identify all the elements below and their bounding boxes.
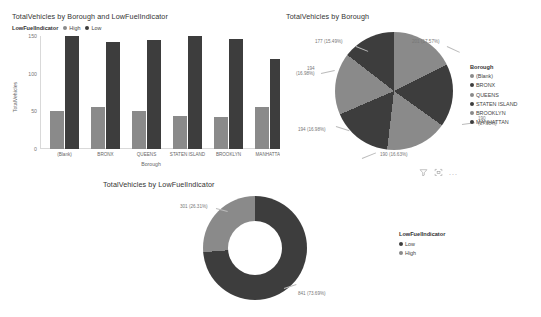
pie-legend-item-manhattan[interactable]: MANHATTAN: [470, 119, 517, 125]
pie-legend-item-blank[interactable]: (Blank): [470, 73, 517, 79]
pie-legend-item-staten-island[interactable]: STATEN ISLAND: [470, 101, 517, 107]
x-tick-label: QUEENS: [124, 152, 170, 157]
bar-low[interactable]: [106, 42, 120, 149]
donut-legend-item-high[interactable]: High: [399, 250, 445, 256]
bar-chart-title: TotalVehicles by Borough and LowFuelIndi…: [12, 12, 168, 21]
bar-group[interactable]: STATEN ISLAND: [171, 36, 204, 149]
bar-legend-title: LowFuelIndicator: [12, 25, 58, 31]
bar-high[interactable]: [132, 111, 146, 149]
donut-data-label-low: 841 (73.69%): [298, 291, 326, 296]
bar-legend-item-low[interactable]: Low: [85, 25, 101, 31]
pie-legend-item-bronx[interactable]: BRONX: [470, 82, 517, 88]
bar-high[interactable]: [91, 107, 105, 149]
y-tick-label: 100: [28, 71, 37, 77]
donut-chart-title: TotalVehicles by LowFuelIndicator: [103, 180, 215, 189]
pie-legend-label: (Blank): [476, 73, 493, 79]
bar-high[interactable]: [255, 107, 269, 149]
legend-dot-icon: [63, 26, 67, 30]
pie-legend-title: Borough: [470, 64, 517, 70]
legend-dot-icon: [470, 93, 474, 97]
y-tick-label: 150: [28, 33, 37, 39]
pie-legend-label: BROOKLYN: [476, 110, 506, 116]
pie-legend-label: MANHATTAN: [476, 119, 509, 125]
y-tick-label: 50: [31, 108, 37, 114]
pie-data-label-brooklyn: 194 (16.98%): [296, 66, 315, 77]
bar-low[interactable]: [65, 36, 79, 149]
bar-group[interactable]: QUEENS: [130, 40, 163, 149]
donut-chart-legend: LowFuelIndicator Low High: [399, 231, 445, 256]
bar-group[interactable]: (Blank): [48, 36, 81, 149]
x-tick-label: STATEN ISLAND: [165, 152, 211, 157]
legend-dot-icon: [470, 102, 474, 106]
pie-chart-visual[interactable]: TotalVehicles by Borough 201 (17.57%) 19…: [280, 6, 541, 166]
bar-low[interactable]: [147, 40, 161, 149]
bar-low[interactable]: [229, 39, 243, 149]
pie-chart-plot-area: [335, 32, 453, 150]
pie-slices[interactable]: [335, 32, 453, 150]
bar-low[interactable]: [188, 36, 202, 149]
legend-dot-icon: [85, 26, 89, 30]
pie-chart-legend: Borough (Blank) BRONX QUEENS STATEN ISLA…: [470, 64, 517, 125]
pie-data-label-staten-island: 194 (16.98%): [298, 127, 326, 132]
leader-line: [362, 152, 376, 159]
bar-group[interactable]: BROOKLYN: [212, 39, 245, 149]
pie-legend-item-brooklyn[interactable]: BROOKLYN: [470, 110, 517, 116]
legend-dot-icon: [470, 120, 474, 124]
pie-legend-item-queens[interactable]: QUEENS: [470, 92, 517, 98]
bar-high[interactable]: [173, 116, 187, 149]
report-canvas: TotalVehicles by Borough and LowFuelIndi…: [0, 0, 541, 317]
legend-dot-icon: [399, 242, 403, 246]
bar-chart-legend: LowFuelIndicator High Low: [12, 25, 101, 31]
donut-legend-label: High: [405, 250, 416, 256]
pie-data-label-blank: 201 (17.57%): [412, 39, 440, 44]
x-tick-label: (Blank): [42, 152, 88, 157]
bar-chart-plot-area: 150 100 50 0 (Blank) BRONX QUEENS: [40, 36, 288, 149]
leader-line: [321, 70, 335, 74]
pie-data-label-line2: (16.98%): [296, 71, 315, 76]
legend-dot-icon: [470, 74, 474, 78]
x-tick-label: BRONX: [83, 152, 129, 157]
bar-legend-label: High: [69, 25, 80, 31]
pie-data-label-queens: 190 (16.63%): [380, 152, 408, 157]
bar-legend-label: Low: [91, 25, 101, 31]
donut-legend-title: LowFuelIndicator: [399, 231, 445, 237]
legend-dot-icon: [399, 251, 403, 255]
pie-data-label-manhattan: 177 (15.49%): [315, 39, 343, 44]
pie-data-label-line1: 194: [307, 66, 315, 71]
x-axis-title: Borough: [6, 161, 296, 167]
bar-legend-item-high[interactable]: High: [63, 25, 80, 31]
pie-legend-label: STATEN ISLAND: [476, 101, 517, 107]
donut-legend-item-low[interactable]: Low: [399, 241, 445, 247]
donut-data-label-high: 301 (26.31%): [180, 204, 208, 209]
pie-legend-label: BRONX: [476, 82, 495, 88]
y-axis-title: TotalVehicles: [12, 82, 18, 112]
bar-high[interactable]: [50, 111, 64, 149]
legend-dot-icon: [470, 83, 474, 87]
y-tick-label: 0: [34, 146, 37, 152]
donut-chart-visual[interactable]: TotalVehicles by LowFuelIndicator 301 (2…: [95, 176, 455, 313]
bar-group[interactable]: BRONX: [89, 42, 122, 149]
pie-legend-label: QUEENS: [476, 92, 499, 98]
more-options-button[interactable]: ...: [449, 169, 458, 176]
y-axis-line: [40, 36, 41, 149]
donut-hole: [228, 221, 282, 275]
bar-chart-visual[interactable]: TotalVehicles by Borough and LowFuelIndi…: [6, 6, 296, 174]
bar-high[interactable]: [214, 117, 228, 149]
legend-dot-icon: [470, 111, 474, 115]
pie-chart-title: TotalVehicles by Borough: [286, 12, 369, 21]
x-tick-label: BROOKLYN: [206, 152, 252, 157]
donut-legend-label: Low: [405, 241, 415, 247]
